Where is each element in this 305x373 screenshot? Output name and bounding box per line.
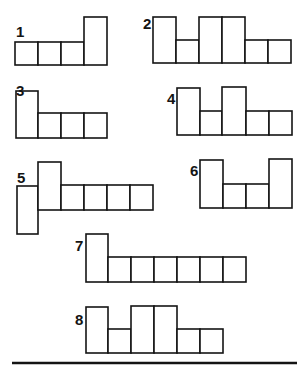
figure-6: 6 bbox=[190, 159, 292, 208]
figure-7-cell bbox=[223, 257, 246, 282]
figure-label: 6 bbox=[190, 162, 198, 179]
figure-label: 3 bbox=[16, 82, 24, 99]
figure-1-cell bbox=[84, 17, 107, 65]
figure-5-cell bbox=[107, 185, 130, 210]
figure-5-cell bbox=[17, 186, 38, 234]
figures-group: 12345678 bbox=[15, 15, 292, 353]
figure-1-cell bbox=[61, 42, 84, 65]
figure-1: 1 bbox=[15, 17, 107, 65]
figure-2-cell bbox=[222, 17, 245, 63]
figure-4-cell bbox=[222, 87, 246, 135]
figure-label: 7 bbox=[75, 237, 83, 254]
figure-6-cell bbox=[269, 159, 292, 208]
figure-5-cell bbox=[61, 185, 84, 210]
figure-8-cell bbox=[131, 306, 154, 353]
figure-2-cell bbox=[245, 40, 268, 63]
figure-4-cell bbox=[246, 111, 269, 135]
figure-8-cell bbox=[177, 329, 200, 353]
figure-5-cell bbox=[130, 185, 153, 210]
figure-5: 5 bbox=[17, 162, 153, 234]
figure-4-cell bbox=[177, 88, 200, 135]
figure-7-cell bbox=[154, 257, 177, 282]
figure-5-cell bbox=[84, 185, 107, 210]
figure-7-cell bbox=[86, 234, 108, 282]
figure-7-cell bbox=[108, 257, 131, 282]
figure-label: 1 bbox=[16, 23, 24, 40]
figure-2-cell bbox=[176, 40, 199, 63]
figure-label: 2 bbox=[143, 15, 151, 32]
figure-2-cell bbox=[153, 17, 176, 63]
figure-3-cell bbox=[38, 113, 61, 138]
figure-label: 8 bbox=[75, 311, 83, 328]
figure-8-cell bbox=[86, 307, 108, 353]
figure-label: 5 bbox=[17, 169, 25, 186]
figure-5-cell bbox=[38, 162, 61, 210]
figure-3: 3 bbox=[16, 82, 107, 138]
figure-6-cell bbox=[246, 184, 269, 208]
figure-2-cell bbox=[268, 40, 291, 63]
figure-6-cell bbox=[223, 184, 246, 208]
figure-8-cell bbox=[108, 329, 131, 353]
figure-canvas: 12345678 bbox=[0, 0, 305, 373]
figure-4: 4 bbox=[167, 87, 292, 135]
figure-7-cell bbox=[131, 257, 154, 282]
figure-8: 8 bbox=[75, 306, 223, 353]
figure-1-cell bbox=[38, 42, 61, 65]
figure-7: 7 bbox=[75, 234, 246, 282]
figure-7-cell bbox=[200, 257, 223, 282]
figure-2-cell bbox=[199, 17, 222, 63]
figure-4-cell bbox=[200, 111, 222, 135]
figure-7-cell bbox=[177, 257, 200, 282]
figure-label: 4 bbox=[167, 90, 176, 107]
figure-8-cell bbox=[154, 306, 177, 353]
figure-6-cell bbox=[200, 160, 223, 208]
figure-1-cell bbox=[15, 42, 38, 65]
figure-2: 2 bbox=[143, 15, 291, 63]
figure-4-cell bbox=[269, 111, 292, 135]
figure-3-cell bbox=[84, 113, 107, 138]
figure-3-cell bbox=[61, 113, 84, 138]
figure-8-cell bbox=[200, 329, 223, 353]
